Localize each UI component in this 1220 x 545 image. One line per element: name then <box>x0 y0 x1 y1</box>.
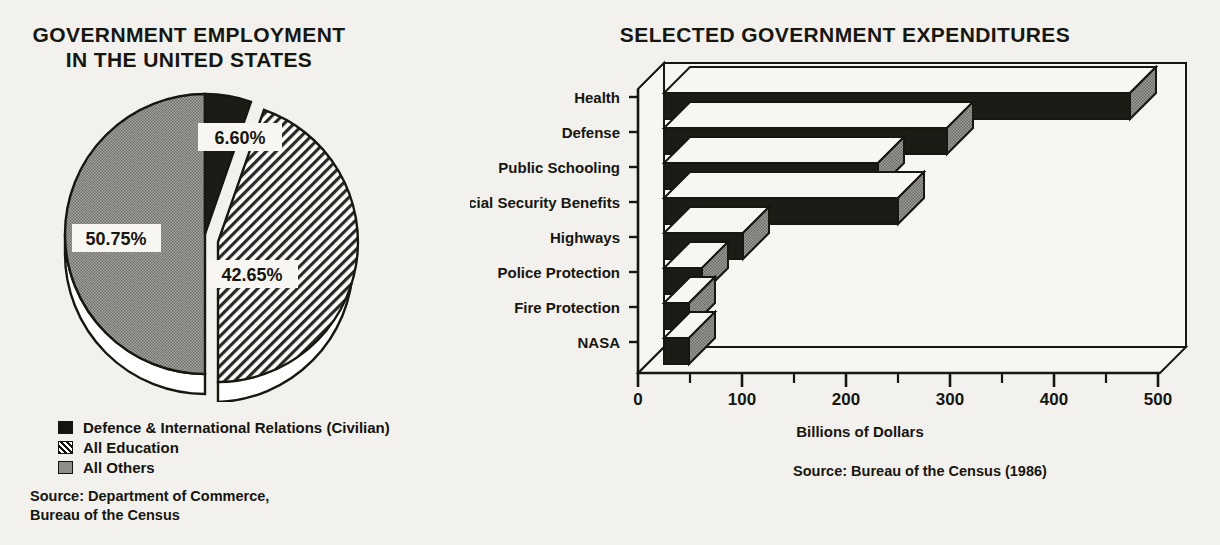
pie-chart-figure: 6.60% 50.75% 42.65% <box>55 82 360 402</box>
bar-category-label-7: NASA <box>577 334 620 351</box>
pie-value-label-education: 42.65% <box>207 260 298 288</box>
bar-xtick-label-2: 200 <box>832 390 860 405</box>
pie-chart-source: Source: Department of Commerce, Bureau o… <box>30 487 269 525</box>
bar-chart-svg: Health Defense Public Schooling Social S… <box>470 55 1220 405</box>
bar-category-label-2: Public Schooling <box>498 159 620 176</box>
legend-swatch-hatch-icon <box>58 441 73 454</box>
bar-category-label-4: Highways <box>550 229 620 246</box>
bar-xtick-label-4: 400 <box>1040 390 1068 405</box>
pie-value-defence: 6.60% <box>214 128 265 148</box>
legend-item-defence: Defence & International Relations (Civil… <box>58 418 458 436</box>
pie-value-label-others: 50.75% <box>72 224 161 252</box>
bar-category-label-1: Defense <box>562 124 620 141</box>
pie-source-line-2: Bureau of the Census <box>30 506 269 525</box>
bar-xtick-label-3: 300 <box>936 390 964 405</box>
bar-xtick-label-1: 100 <box>728 390 756 405</box>
pie-value-label-defence: 6.60% <box>198 123 282 151</box>
bar-category-label-0: Health <box>574 89 620 106</box>
bar-chart-x-axis-label: Billions of Dollars <box>650 423 1070 440</box>
bar-category-label-5: Police Protection <box>497 264 620 281</box>
legend-swatch-gray-icon <box>58 461 73 474</box>
pie-chart-title: GOVERNMENT EMPLOYMENT IN THE UNITED STAT… <box>24 22 354 72</box>
bar-xtick-label-5: 500 <box>1144 390 1172 405</box>
pie-value-education: 42.65% <box>221 265 282 285</box>
bar-category-label-6: Fire Protection <box>514 299 620 316</box>
bar-xtick-label-0: 0 <box>633 390 642 405</box>
pie-value-others: 50.75% <box>85 229 146 249</box>
pie-source-line-1: Source: Department of Commerce, <box>30 487 269 506</box>
legend-label-others: All Others <box>83 459 155 476</box>
pie-chart-panel: GOVERNMENT EMPLOYMENT IN THE UNITED STAT… <box>0 0 470 545</box>
bar-chart-figure: Health Defense Public Schooling Social S… <box>470 55 1220 405</box>
legend-label-education: All Education <box>83 439 179 456</box>
legend-label-defence: Defence & International Relations (Civil… <box>83 419 390 436</box>
pie-chart-svg: 6.60% 50.75% 42.65% <box>55 82 360 402</box>
pie-title-line-2: IN THE UNITED STATES <box>24 47 354 72</box>
pie-title-line-1: GOVERNMENT EMPLOYMENT <box>24 22 354 47</box>
legend-item-education: All Education <box>58 438 458 456</box>
pie-chart-legend: Defence & International Relations (Civil… <box>58 418 458 478</box>
bar-chart-panel: SELECTED GOVERNMENT EXPENDITURES <box>470 0 1220 545</box>
bar-category-label-3: Social Security Benefits <box>470 194 620 211</box>
bar-chart-source: Source: Bureau of the Census (1986) <box>670 462 1170 481</box>
infographic-page: GOVERNMENT EMPLOYMENT IN THE UNITED STAT… <box>0 0 1220 545</box>
legend-swatch-solid-black-icon <box>58 421 73 434</box>
bar-chart-title: SELECTED GOVERNMENT EXPENDITURES <box>500 22 1190 47</box>
legend-item-others: All Others <box>58 458 458 476</box>
